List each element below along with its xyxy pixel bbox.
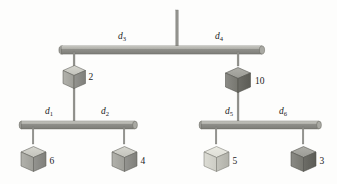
label-d6-sub: 6	[284, 110, 288, 117]
block-2	[63, 66, 86, 89]
label-d5: d5	[225, 106, 234, 117]
block-3	[291, 147, 316, 172]
weight-label-block-6: 6	[50, 156, 55, 166]
block-6	[21, 147, 46, 172]
weight-label-block-5: 5	[233, 156, 238, 166]
weight-label-block-2: 2	[89, 72, 94, 82]
label-d1: d1	[45, 106, 53, 117]
diagram-canvas: d3 d4 d1 d2 d5 d6 2 10 6 4 5 3	[0, 0, 337, 184]
ceiling-support-rod	[176, 10, 178, 49]
weight-label-block-10: 10	[255, 76, 265, 86]
weight-label-block-3: 3	[320, 156, 325, 166]
weight-label-block-4: 4	[141, 156, 146, 166]
hanger-rod-block-6	[32, 127, 34, 144]
hanger-rod-top-right	[237, 52, 239, 66]
label-d6: d6	[279, 106, 288, 117]
label-d4-sub: 4	[220, 35, 224, 42]
left-beam	[19, 121, 137, 129]
label-d3-sub: 3	[123, 35, 127, 42]
label-d4: d4	[215, 31, 224, 42]
hanger-rod-block-3	[302, 127, 304, 144]
label-d2-sub: 2	[106, 110, 109, 117]
label-d2: d2	[101, 106, 109, 117]
block-5	[204, 147, 229, 172]
label-d1-sub: 1	[50, 110, 53, 117]
hanger-rod-block-5	[215, 127, 217, 144]
mobile-diagram-figure: d3 d4 d1 d2 d5 d6 2 10 6 4 5 3	[0, 0, 337, 184]
hanger-rod-block-4	[123, 127, 125, 144]
hanger-rod-top-left	[73, 52, 75, 66]
label-d5-sub: 5	[230, 110, 234, 117]
label-d3: d3	[118, 31, 127, 42]
top-beam	[59, 46, 265, 54]
block-4	[112, 147, 137, 172]
block-10	[226, 68, 251, 93]
